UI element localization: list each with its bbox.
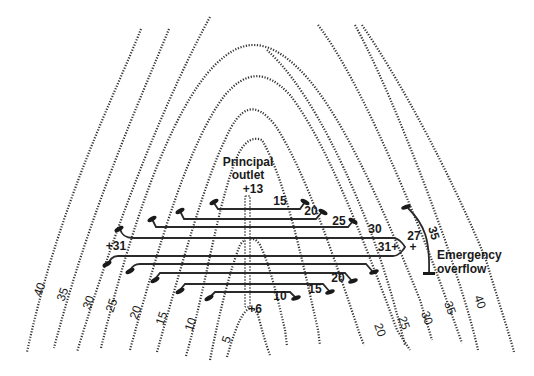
contour-30-right <box>318 25 462 343</box>
contour-35-right <box>355 25 478 350</box>
principal-outlet-label-2: outlet <box>232 168 265 182</box>
principal-outlet-label-1: Principal <box>223 155 274 169</box>
contour-diagram: Principal outlet +13 +6 +31 31+ 27 + Eme… <box>0 0 534 376</box>
contour-25-right <box>267 50 405 345</box>
contour-label-30-left: 30 <box>80 293 98 311</box>
contour-40-right <box>362 25 514 352</box>
contour-25-arch <box>101 45 432 348</box>
contour-label-20-right: 20 <box>371 321 389 339</box>
contour-label-15-left: 15 <box>153 309 171 327</box>
pipe-label-upper-15: 15 <box>273 194 287 208</box>
left-spot-elevation: +31 <box>106 239 127 253</box>
right-spot-elevation: 31+ <box>378 240 398 254</box>
contour-label-25-left: 25 <box>103 296 121 314</box>
contour-30-left <box>77 17 210 352</box>
contour-label-5: 5 <box>219 334 235 345</box>
riser-bottom-elevation: +6 <box>248 302 262 316</box>
pipe-label-lower-10: 10 <box>273 289 287 303</box>
contour-label-40-right: 40 <box>471 293 489 311</box>
spot-27-mark: + <box>409 240 416 254</box>
riser-top-elevation: +13 <box>243 182 264 196</box>
contour-label-30-right: 30 <box>418 309 436 327</box>
emergency-label-2: overflow <box>437 262 487 276</box>
pipe-upper-15 <box>214 202 305 209</box>
contour-label-35-right: 35 <box>441 299 459 317</box>
labels: Principal outlet +13 +6 +31 31+ 27 + Eme… <box>31 155 502 345</box>
principal-outlet-riser <box>245 196 250 307</box>
emergency-contour-label: 35 <box>425 225 443 242</box>
pipe-lower-20 <box>155 273 352 281</box>
contour-label-40-left: 40 <box>31 280 49 298</box>
pipe-label-upper-20: 20 <box>304 204 318 218</box>
pipe-label-upper-30: 30 <box>368 222 382 236</box>
contour-lines <box>27 17 514 360</box>
pipe-label-lower-15: 15 <box>308 282 322 296</box>
emergency-label-1: Emergency <box>437 248 502 262</box>
pipe-label-lower-20: 20 <box>331 271 345 285</box>
pipe-upper-20 <box>180 211 322 219</box>
contour-label-35-left: 35 <box>54 285 72 303</box>
pipe-label-upper-25: 25 <box>332 214 346 228</box>
contour-20-arch <box>130 76 410 350</box>
